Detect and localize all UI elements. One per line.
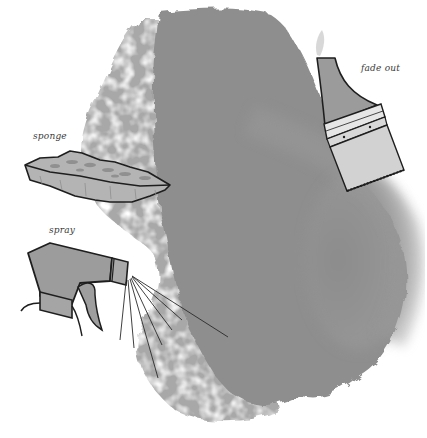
spray-label: spray xyxy=(49,225,75,235)
fade-out-label: fade out xyxy=(361,63,400,73)
sponge-label: sponge xyxy=(33,131,67,141)
illustration-canvas: sponge spray fade out xyxy=(0,0,427,438)
